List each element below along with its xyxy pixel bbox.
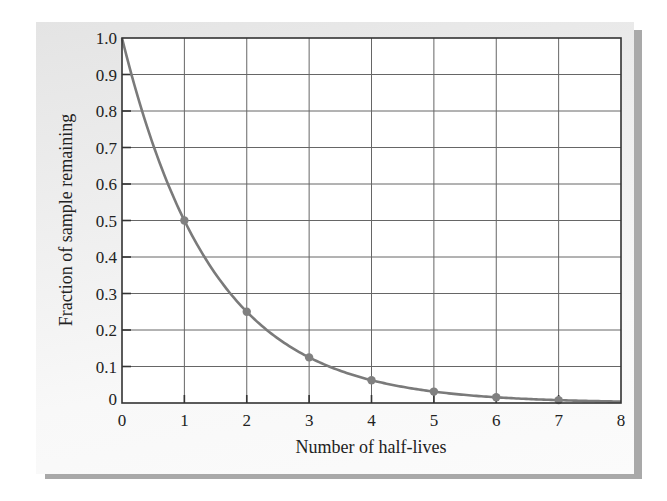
x-tick-label: 5 [430,411,439,430]
data-point [430,387,438,395]
x-tick-label: 2 [243,411,252,430]
x-tick-label: 7 [554,411,563,430]
x-tick-label: 3 [305,411,314,430]
x-axis-label: Number of half-lives [296,437,447,457]
decay-chart: 00.10.20.30.40.50.60.70.80.91.0 01234567… [0,0,667,501]
x-tick-label: 8 [617,411,626,430]
y-tick-label: 0.3 [96,285,117,304]
data-point [243,308,251,316]
y-tick-label: 0.1 [96,358,117,377]
y-tick-label: 0 [109,390,118,409]
data-point [180,216,188,224]
data-point [492,393,500,401]
x-tick-label: 0 [118,411,127,430]
y-tick-label: 0.7 [96,139,118,158]
y-axis-ticks: 00.10.20.30.40.50.60.70.80.91.0 [96,29,118,409]
y-tick-label: 0.9 [96,66,117,85]
data-point [305,353,313,361]
x-axis-ticks: 012345678 [118,411,626,430]
data-point [367,376,375,384]
y-tick-label: 0.6 [96,175,117,194]
y-tick-label: 0.2 [96,321,117,340]
y-tick-label: 0.8 [96,102,117,121]
x-tick-label: 6 [492,411,501,430]
y-axis-label: Fraction of sample remaining [56,114,76,326]
x-tick-label: 4 [367,411,376,430]
y-tick-label: 0.4 [96,248,118,267]
x-tick-label: 1 [180,411,189,430]
y-tick-label: 1.0 [96,29,117,48]
y-tick-label: 0.5 [96,212,117,231]
